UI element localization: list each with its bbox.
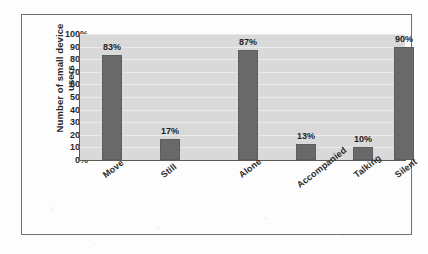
bar-value-label: 17% bbox=[147, 127, 193, 136]
bar bbox=[160, 139, 180, 160]
chart-border-frame: Number of small device users 100%90%80%7… bbox=[21, 14, 412, 235]
bar-slot: 87% bbox=[238, 34, 258, 160]
chart-figure: Number of small device users 100%90%80%7… bbox=[0, 0, 428, 254]
bar-value-label: 90% bbox=[381, 35, 427, 44]
bar-value-label: 87% bbox=[225, 38, 271, 47]
bar-slot: 90% bbox=[394, 34, 414, 160]
x-category-label: Still bbox=[159, 162, 179, 180]
bar bbox=[394, 47, 414, 160]
bar bbox=[238, 50, 258, 160]
bar-slot: 83% bbox=[102, 34, 122, 160]
bar-value-label: 13% bbox=[283, 132, 329, 141]
bar-value-label: 83% bbox=[89, 43, 135, 52]
bar-slot: 13% bbox=[296, 34, 316, 160]
plot-area: 83%17%87%13%10%90% bbox=[80, 34, 405, 160]
bar bbox=[296, 144, 316, 160]
bar-slot: 17% bbox=[160, 34, 180, 160]
bar-value-label: 10% bbox=[340, 135, 386, 144]
bar-slot: 10% bbox=[353, 34, 373, 160]
plot-inner: 83%17%87%13%10%90% bbox=[80, 34, 405, 160]
x-axis-line bbox=[79, 160, 406, 161]
bar bbox=[102, 55, 122, 160]
